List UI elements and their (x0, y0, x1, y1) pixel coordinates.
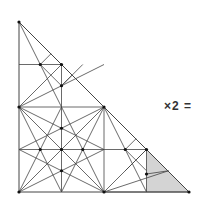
reference-point (60, 84, 63, 87)
reference-point (145, 148, 148, 151)
crease-line (19, 65, 62, 108)
reference-point (17, 20, 20, 23)
multiply-by-two-label: ×2 = (164, 99, 192, 113)
reference-point (60, 63, 63, 66)
reference-point (39, 148, 42, 151)
reference-point (17, 190, 20, 193)
reference-point (60, 148, 63, 151)
crease-line (125, 139, 136, 150)
reference-point (60, 127, 63, 130)
reference-point (124, 148, 127, 151)
reference-point (102, 190, 105, 193)
reference-point (81, 148, 84, 151)
crease-line (40, 54, 51, 65)
reference-point (102, 105, 105, 108)
reference-point (187, 190, 190, 193)
reference-point (145, 172, 148, 175)
reference-point (60, 169, 63, 172)
reference-point (17, 105, 20, 108)
reference-point (39, 63, 42, 66)
